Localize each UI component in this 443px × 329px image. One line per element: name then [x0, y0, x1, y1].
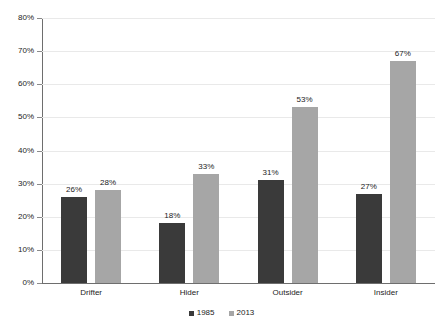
y-axis-tick: [37, 117, 42, 118]
bar: [356, 194, 382, 283]
bar-value-label: 67%: [383, 50, 423, 58]
y-axis-tick-label: 30%: [0, 180, 34, 188]
x-axis-category-label: Insider: [341, 288, 431, 297]
y-axis-tick: [37, 84, 42, 85]
bar-value-label: 31%: [251, 169, 291, 177]
legend-item[interactable]: 2013: [229, 309, 255, 317]
y-axis-tick: [37, 18, 42, 19]
legend-swatch-icon: [229, 311, 234, 316]
y-axis-tick-label: 50%: [0, 113, 34, 121]
x-axis-category-label: Outsider: [243, 288, 333, 297]
y-axis-tick-label: 20%: [0, 213, 34, 221]
legend-swatch-icon: [189, 311, 194, 316]
bar: [258, 180, 284, 283]
legend-item[interactable]: 1985: [189, 309, 215, 317]
bar: [390, 61, 416, 283]
y-axis-tick: [37, 217, 42, 218]
gridline: [42, 151, 435, 152]
y-axis-tick-label: 60%: [0, 80, 34, 88]
legend-label: 2013: [237, 309, 255, 317]
y-axis-tick: [37, 51, 42, 52]
bar-value-label: 27%: [349, 183, 389, 191]
chart-legend: 19852013: [0, 309, 443, 317]
x-axis-category-label: Drifter: [46, 288, 136, 297]
bar-value-label: 53%: [285, 96, 325, 104]
y-axis-tick-label: 40%: [0, 147, 34, 155]
y-axis-tick-label: 0%: [0, 279, 34, 287]
x-axis-line: [42, 283, 435, 284]
bar: [292, 107, 318, 283]
bar-chart: 0%10%20%30%40%50%60%70%80% 26%28%18%33%3…: [0, 0, 443, 329]
y-axis-tick-label: 80%: [0, 14, 34, 22]
bar: [61, 197, 87, 283]
y-axis-tick: [37, 283, 42, 284]
bar: [95, 190, 121, 283]
y-axis-tick-label: 70%: [0, 47, 34, 55]
x-axis-category-label: Hider: [144, 288, 234, 297]
gridline: [42, 117, 435, 118]
y-axis-tick: [37, 151, 42, 152]
bar-value-label: 28%: [88, 179, 128, 187]
gridline: [42, 51, 435, 52]
gridline: [42, 18, 435, 19]
legend-label: 1985: [197, 309, 215, 317]
bar: [159, 223, 185, 283]
gridline: [42, 84, 435, 85]
y-axis-tick: [37, 250, 42, 251]
bar: [193, 174, 219, 283]
y-axis-tick: [37, 184, 42, 185]
y-axis-tick-label: 10%: [0, 246, 34, 254]
bar-value-label: 33%: [186, 163, 226, 171]
bar-value-label: 18%: [152, 212, 192, 220]
